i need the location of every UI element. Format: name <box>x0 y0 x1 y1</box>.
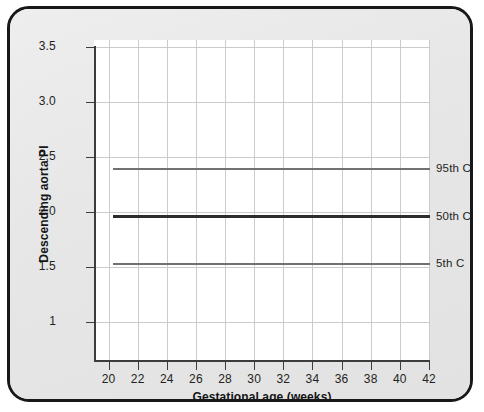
y-tick-2.0 <box>86 212 95 213</box>
x-tick-42 <box>429 362 430 370</box>
x-tick-40 <box>400 362 401 370</box>
curve-95th-c <box>113 168 430 170</box>
gridline-vertical-22 <box>138 40 139 361</box>
curve-50th-c <box>113 215 430 218</box>
y-tick-label-1: 1 <box>12 314 56 328</box>
gridline-vertical-34 <box>312 40 313 361</box>
x-tick-22 <box>138 362 139 370</box>
gridline-horizontal-3.0 <box>94 102 429 103</box>
gridline-vertical-38 <box>371 40 372 361</box>
gridline-horizontal-1 <box>94 322 429 323</box>
gridline-vertical-42 <box>429 40 430 361</box>
x-tick-20 <box>109 362 110 370</box>
y-tick-3.5 <box>86 47 95 48</box>
gridline-vertical-36 <box>342 40 343 361</box>
gridline-vertical-24 <box>167 40 168 361</box>
gridline-vertical-20 <box>109 40 110 361</box>
gridline-vertical-32 <box>283 40 284 361</box>
x-tick-24 <box>167 362 168 370</box>
y-tick-2.5 <box>86 157 95 158</box>
gridline-horizontal-2.5 <box>94 157 429 158</box>
curve-5th-c <box>113 263 430 265</box>
curve-label-50th-c: 50th C <box>436 210 471 222</box>
y-tick-3.0 <box>86 102 95 103</box>
x-tick-34 <box>312 362 313 370</box>
y-axis-line <box>94 46 96 362</box>
y-tick-1.5 <box>86 267 95 268</box>
y-tick-label-3.5: 3.5 <box>12 39 56 53</box>
x-tick-label-42: 42 <box>409 372 449 386</box>
gridline-horizontal-2.0 <box>94 212 429 213</box>
curve-label-95th-c: 95th C <box>436 162 471 174</box>
gridline-vertical-40 <box>400 40 401 361</box>
plot-area <box>94 40 429 361</box>
x-tick-28 <box>225 362 226 370</box>
gridline-horizontal-1.5 <box>94 267 429 268</box>
x-tick-30 <box>254 362 255 370</box>
grid-container <box>94 40 429 361</box>
x-axis-title: Gestational age (weeks) <box>94 390 430 402</box>
gridline-vertical-28 <box>225 40 226 361</box>
x-tick-36 <box>342 362 343 370</box>
gridline-vertical-26 <box>196 40 197 361</box>
gridline-vertical-30 <box>254 40 255 361</box>
y-tick-1 <box>86 322 95 323</box>
curve-label-5th-c: 5th C <box>436 257 465 269</box>
x-tick-38 <box>371 362 372 370</box>
gridline-horizontal-3.5 <box>94 47 429 48</box>
x-tick-26 <box>196 362 197 370</box>
figure-card: 11.52.02.53.03.5 20222426283032343638404… <box>7 6 473 402</box>
x-axis-line <box>94 360 430 362</box>
x-tick-32 <box>283 362 284 370</box>
y-axis-title: Descending aorta PI <box>37 104 51 304</box>
